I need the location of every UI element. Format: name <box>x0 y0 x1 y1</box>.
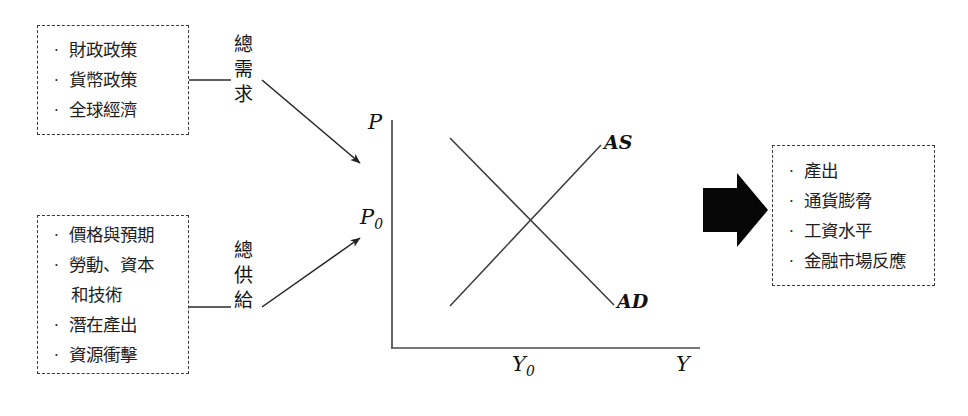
list-item-label: 貨幣政策 <box>69 70 137 90</box>
equilibrium-output-label: Y0 <box>512 352 535 379</box>
list-item-label: 勞動、資本 <box>69 255 154 275</box>
list-item-label: 潛在產出 <box>69 315 137 335</box>
aggregate-demand-label: 總 需 求 <box>231 32 255 107</box>
list-item-label: 金融市場反應 <box>804 251 906 271</box>
as-curve-label: AS <box>604 131 632 153</box>
list-item-label: 通貨膨脅 <box>804 191 872 211</box>
list-item: ·工資水平 <box>789 216 934 246</box>
aggregate-supply-char: 給 <box>231 288 255 313</box>
list-item-label: 資源衝擊 <box>69 345 137 365</box>
list-item: ·價格與預期 <box>54 220 188 250</box>
equilibrium-price-subscript: 0 <box>374 216 383 232</box>
ad-curve-label: AD <box>617 290 648 312</box>
equilibrium-output-subscript: 0 <box>526 363 535 379</box>
equilibrium-output-symbol: Y <box>512 352 526 376</box>
bullet-icon: · <box>54 95 69 125</box>
list-item: ·貨幣政策 <box>54 65 188 95</box>
list-item-label: 財政政策 <box>69 40 137 60</box>
demand-factors-box: ·財政政策 ·貨幣政策 ·全球經濟 <box>37 25 189 135</box>
bullet-icon: · <box>54 35 69 65</box>
list-item: ·產出 <box>789 156 934 186</box>
list-item: ·資源衝擊 <box>54 340 188 370</box>
bullet-icon: · <box>54 310 69 340</box>
bullet-icon: · <box>54 340 69 370</box>
list-item-label: 產出 <box>804 161 838 181</box>
y-axis-label: P <box>368 110 382 134</box>
list-item-label: 價格與預期 <box>69 225 154 245</box>
aggregate-supply-char: 總 <box>231 238 255 263</box>
supply-arrow <box>262 238 360 307</box>
supply-factors-box: ·價格與預期 ·勞動、資本 和技術 ·潛在產出 ·資源衝擊 <box>37 215 189 374</box>
list-item-label: 工資水平 <box>804 221 872 241</box>
list-item: ·潛在產出 <box>54 310 188 340</box>
list-item: ·勞動、資本 <box>54 250 188 280</box>
bullet-icon: · <box>54 250 69 280</box>
bullet-icon: · <box>789 216 804 246</box>
list-item: ·全球經濟 <box>54 95 188 125</box>
list-item: ·通貨膨脅 <box>789 186 934 216</box>
list-item: ·財政政策 <box>54 35 188 65</box>
bullet-icon: · <box>54 65 69 95</box>
list-item-continuation: 和技術 <box>54 280 188 310</box>
aggregate-demand-char: 求 <box>231 82 255 107</box>
bullet-icon: · <box>789 186 804 216</box>
aggregate-supply-label: 總 供 給 <box>231 238 255 313</box>
equilibrium-price-symbol: P <box>360 205 374 229</box>
outcome-block-arrow <box>703 173 768 247</box>
list-item: ·金融市場反應 <box>789 246 934 276</box>
aggregate-demand-char: 總 <box>231 32 255 57</box>
list-item-label: 全球經濟 <box>69 100 137 120</box>
bullet-icon: · <box>54 220 69 250</box>
bullet-icon: · <box>789 156 804 186</box>
list-item-label: 和技術 <box>71 285 122 305</box>
demand-arrow <box>262 80 360 163</box>
equilibrium-price-label: P0 <box>360 205 383 232</box>
as-curve <box>450 145 601 306</box>
aggregate-demand-char: 需 <box>231 57 255 82</box>
outcomes-box: ·產出 ·通貨膨脅 ·工資水平 ·金融市場反應 <box>772 145 935 286</box>
aggregate-supply-char: 供 <box>231 263 255 288</box>
x-axis-label: Y <box>676 352 690 376</box>
bullet-icon: · <box>789 246 804 276</box>
